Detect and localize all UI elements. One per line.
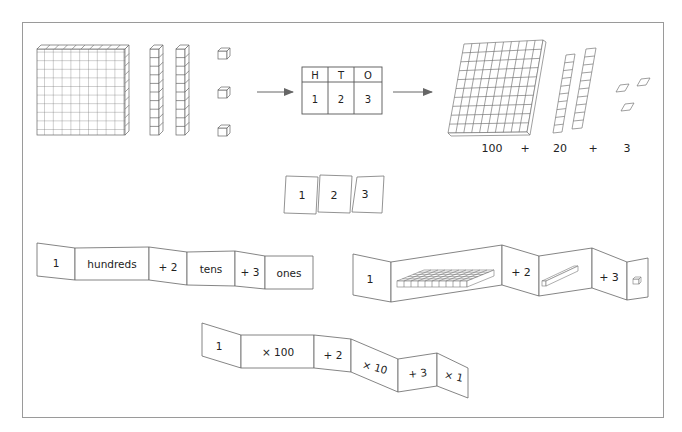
table-header-t: T <box>337 70 345 81</box>
strip-multiply-panel-x100: × 100 <box>262 346 294 358</box>
strip-multiply-panel-plus3: + 3 <box>408 366 428 380</box>
ones-cubes-skewed <box>616 78 650 111</box>
ones-cubes <box>218 48 230 136</box>
expanded-term-3: 3 <box>624 142 631 155</box>
ones-cube-icon <box>633 277 641 284</box>
expanded-plus: + <box>588 142 597 155</box>
table-header-o: O <box>364 70 372 81</box>
strip-pictures-panel-1: 1 <box>367 273 374 286</box>
diagram-svg: H T O 1 2 3 <box>0 0 682 432</box>
strip-pictures-panel-plus3: + 3 <box>599 271 619 284</box>
ones-cube-icon <box>218 125 230 136</box>
strip-multiply-panel-1: 1 <box>216 340 223 352</box>
tens-rod-icon <box>176 45 189 135</box>
ones-cube-icon <box>218 48 230 59</box>
table-value-o: 3 <box>365 94 371 105</box>
expanded-term-20: 20 <box>553 142 567 155</box>
expanded-plus: + <box>520 142 529 155</box>
tens-rod-icon <box>553 54 575 133</box>
table-value-t: 2 <box>338 94 344 105</box>
strip-words-panel-hundreds: hundreds <box>87 258 136 270</box>
strip-words-panel-tens: tens <box>200 263 223 275</box>
table-header-h: H <box>311 70 319 81</box>
ones-cube-icon <box>637 78 650 86</box>
tens-rod-icon <box>150 45 163 135</box>
tens-rods <box>150 45 189 135</box>
card-digit-3: 3 <box>362 188 369 201</box>
strip-words-panel-1: 1 <box>53 257 60 269</box>
expanded-term-100: 100 <box>482 142 503 155</box>
tens-rods-skewed <box>553 48 596 133</box>
tens-rod-icon <box>572 48 596 129</box>
table-value-h: 1 <box>312 94 318 105</box>
strip-words-panel-plus3: + 3 <box>241 266 260 278</box>
strip-words-panel-plus2: + 2 <box>159 261 178 273</box>
ones-cube-icon <box>621 103 634 111</box>
hundreds-flat-skewed-icon <box>448 40 546 136</box>
ones-cube-icon <box>616 84 629 92</box>
strip-words-panel-ones: ones <box>276 267 301 279</box>
strip-pictures-panel-plus2: + 2 <box>511 266 531 279</box>
hundreds-flat-icon <box>37 45 129 135</box>
card-digit-1: 1 <box>299 189 306 202</box>
ones-cube-icon <box>218 87 230 98</box>
card-digit-2: 2 <box>331 189 338 202</box>
diagram-canvas: H T O 1 2 3 <box>0 0 682 432</box>
strip-multiply-panel-plus2: + 2 <box>324 349 343 361</box>
